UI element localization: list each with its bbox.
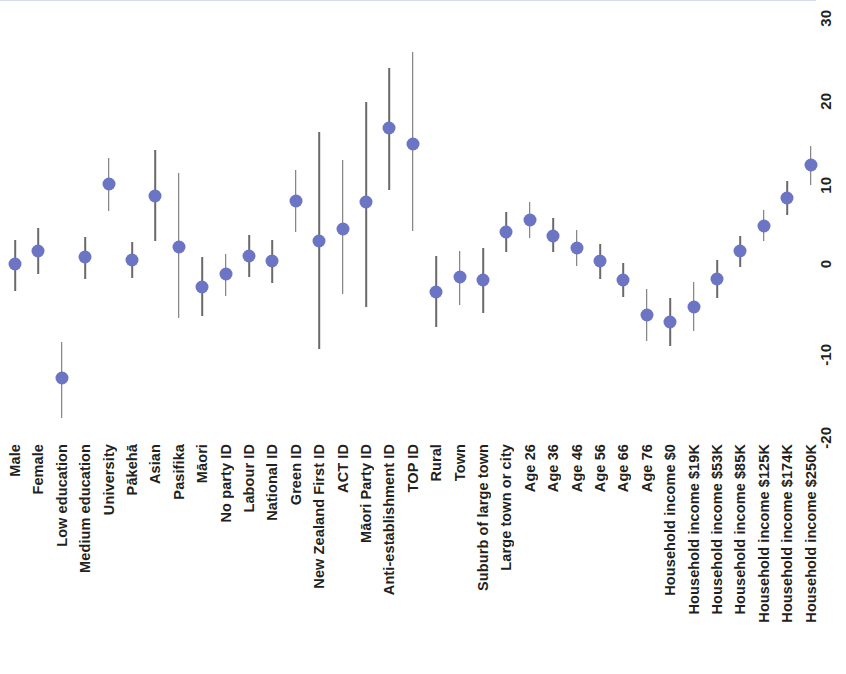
y-axis-tick-label: 0 [806,260,846,278]
estimate-point [547,229,560,242]
estimate-point [406,137,419,150]
estimate-point [32,245,45,258]
estimate-point [687,300,700,313]
x-axis-tick-label: No party ID [215,444,237,672]
x-tick-text: TOP ID [402,444,424,492]
x-tick-text: Household income $53K [706,444,728,615]
x-axis-tick-label: Labour ID [238,444,260,672]
x-axis-tick-label: Suburb of large town [472,444,494,672]
x-axis-tick-label: Rural [425,444,447,672]
y-axis-tick-label: 10 [806,177,846,195]
x-tick-text: Household income $0 [659,444,681,596]
estimate-point [781,192,794,205]
x-axis-tick-label: Māori [191,444,213,672]
estimate-point [266,255,279,268]
x-tick-text: Asian [144,444,166,484]
estimate-point [102,177,115,190]
x-tick-text: Suburb of large town [472,444,494,591]
estimate-point [313,235,326,248]
estimate-point [453,271,466,284]
estimate-point [383,121,396,134]
coefficient-plot-figure: 3020100-10-20 MaleFemaleLow educationMed… [0,0,846,674]
x-axis-tick-label: Household income $125K [753,444,775,672]
estimate-point [711,273,724,286]
x-tick-text: Pasifika [168,444,190,500]
x-axis-tick-label: Age 36 [542,444,564,672]
x-axis-tick-label: Age 66 [612,444,634,672]
x-axis-tick-label: Pasifika [168,444,190,672]
x-axis-tick-label: Age 46 [566,444,588,672]
x-axis-tick-label: Green ID [285,444,307,672]
x-tick-text: Pākehā [121,444,143,495]
x-axis-tick-label: Age 56 [589,444,611,672]
x-tick-text: Age 36 [542,444,564,492]
x-axis-tick-label: TOP ID [402,444,424,672]
x-tick-text: No party ID [215,444,237,522]
x-tick-text: Household income $125K [753,444,775,623]
x-tick-text: ACT ID [332,444,354,493]
y-tick-text: 0 [806,260,846,268]
x-tick-text: New Zealand First ID [308,444,330,589]
estimate-point [640,308,653,321]
x-axis-tick-label: Household income $85K [729,444,751,672]
estimate-point [734,245,747,258]
x-tick-text: Age 76 [636,444,658,492]
estimate-point [79,251,92,264]
x-tick-text: Town [449,444,471,481]
x-tick-text: National ID [261,444,283,521]
x-tick-text: Household income $174K [776,444,798,623]
x-axis-tick-label: Age 26 [519,444,541,672]
estimate-point [196,280,209,293]
x-tick-text: Anti-establishment ID [378,444,400,595]
x-axis-tick-label: Household income $250K [800,444,822,672]
x-axis-tick-label: Age 76 [636,444,658,672]
x-tick-text: Male [4,444,26,477]
x-axis-tick-label: Female [27,444,49,672]
x-tick-text: Large town or city [495,444,517,571]
x-axis-tick-label: Anti-establishment ID [378,444,400,672]
estimate-point [757,219,770,232]
estimate-point [360,196,373,209]
y-axis-tick-label: -10 [806,344,846,362]
y-tick-text: 10 [806,177,846,194]
x-axis-tick-label: Household income $53K [706,444,728,672]
x-axis-tick-label: Household income $0 [659,444,681,672]
x-tick-text: Age 56 [589,444,611,492]
y-tick-text: 20 [806,93,846,110]
estimate-point [149,189,162,202]
estimate-point [594,255,607,268]
estimate-point [9,257,22,270]
x-axis-tick-label: Low education [51,444,73,672]
x-axis-tick-label: Large town or city [495,444,517,672]
x-axis-tick-label: Town [449,444,471,672]
x-axis-tick-label: ACT ID [332,444,354,672]
x-axis-tick-label: Medium education [74,444,96,672]
y-tick-text: 30 [806,10,846,27]
y-tick-text: -10 [806,344,846,366]
x-axis-tick-label: Male [4,444,26,672]
x-tick-text: Female [27,444,49,495]
x-tick-text: Household income $85K [729,444,751,615]
x-tick-text: Rural [425,444,447,482]
estimate-point [243,249,256,262]
estimate-point [55,372,68,385]
estimate-point [289,195,302,208]
estimate-point [430,285,443,298]
y-axis: 3020100-10-20 [806,0,846,440]
x-tick-text: Household income $19K [683,444,705,615]
x-tick-text: Low education [51,444,73,547]
x-axis-tick-label: New Zealand First ID [308,444,330,672]
x-axis-tick-label: University [98,444,120,672]
x-axis-tick-label: Asian [144,444,166,672]
x-tick-text: Age 26 [519,444,541,492]
x-tick-text: Māori [191,444,213,483]
x-axis-tick-label: National ID [261,444,283,672]
plot-area [0,0,816,440]
x-tick-text: Household income $250K [800,444,822,623]
x-tick-text: Māori Party ID [355,444,377,543]
x-tick-text: Age 46 [566,444,588,492]
x-axis-tick-label: Pākehā [121,444,143,672]
estimate-point [523,213,536,226]
x-tick-text: Green ID [285,444,307,505]
y-axis-tick-label: 20 [806,93,846,111]
